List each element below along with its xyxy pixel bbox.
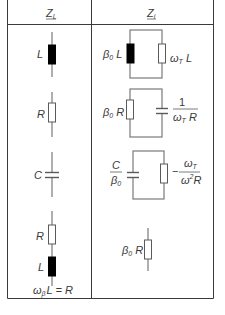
svg-text:ωβL = R: ωβL = R bbox=[33, 284, 73, 298]
svg-text:β0 L: β0 L bbox=[102, 48, 122, 61]
svg-text:β0 R: β0 R bbox=[121, 244, 143, 257]
header-zl: ZL bbox=[45, 7, 57, 20]
svg-text:β0 R: β0 R bbox=[102, 106, 124, 119]
impedance-table: ZL Zi L β0 L ωT L R β0 R 1 ωT R bbox=[0, 0, 225, 315]
svg-text:1: 1 bbox=[179, 96, 185, 108]
svg-text:C: C bbox=[112, 159, 120, 171]
svg-text:ωT: ωT bbox=[184, 157, 198, 170]
svg-text:−: − bbox=[172, 165, 178, 177]
row2-left-resistor: R bbox=[37, 92, 56, 137]
table-grid bbox=[8, 0, 214, 299]
row1-right-parallel: β0 L ωT L bbox=[102, 30, 192, 78]
svg-text:β0: β0 bbox=[110, 174, 121, 187]
svg-text:ωT L: ωT L bbox=[170, 52, 192, 65]
svg-text:R: R bbox=[36, 230, 44, 242]
svg-text:L: L bbox=[37, 48, 43, 60]
row3-right-parallel: C β0 − ωT ω2R bbox=[110, 151, 201, 199]
svg-text:L: L bbox=[38, 261, 44, 273]
row4-right-resistor: β0 R bbox=[121, 228, 152, 271]
row2-right-parallel: β0 R 1 ωT R bbox=[102, 89, 198, 137]
header-zi: Zi bbox=[146, 7, 156, 20]
row1-left-inductor: L bbox=[37, 32, 56, 77]
svg-text:ω2R: ω2R bbox=[181, 173, 201, 186]
svg-text:R: R bbox=[37, 108, 45, 120]
row4-left-series: R L ωβL = R bbox=[33, 211, 73, 298]
svg-text:C: C bbox=[34, 169, 42, 181]
row3-left-capacitor: C bbox=[34, 152, 59, 197]
svg-text:ωT R: ωT R bbox=[173, 111, 197, 124]
svg-text:ZL: ZL bbox=[45, 7, 57, 20]
svg-text:Zi: Zi bbox=[146, 7, 156, 20]
